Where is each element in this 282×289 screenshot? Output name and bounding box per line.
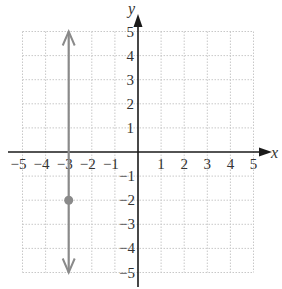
y-tick-label: 2 xyxy=(127,96,135,112)
y-tick-label: −3 xyxy=(119,216,135,232)
x-tick-label: −4 xyxy=(34,156,50,172)
x-tick-label: 1 xyxy=(157,156,165,172)
axes: x y xyxy=(8,0,278,287)
y-axis-label: y xyxy=(126,0,136,18)
y-tick-label: −5 xyxy=(119,265,135,281)
x-tick-label: −1 xyxy=(103,156,119,172)
y-tick-label: −1 xyxy=(119,168,135,184)
y-tick-label: −4 xyxy=(119,240,135,256)
y-tick-label: 1 xyxy=(127,120,135,136)
y-tick-label: 3 xyxy=(127,72,135,88)
x-tick-label: −3 xyxy=(57,156,73,172)
coordinate-plane: x y −5−4−3−2−11234554321−1−2−3−4−5 xyxy=(0,0,282,289)
y-tick-label: 5 xyxy=(127,24,135,40)
x-tick-label: 3 xyxy=(204,156,212,172)
cropped-caption-text xyxy=(0,280,282,289)
x-tick-label: 5 xyxy=(250,156,258,172)
y-tick-label: −2 xyxy=(119,192,135,208)
x-tick-label: −2 xyxy=(80,156,96,172)
plotted-point xyxy=(64,196,73,205)
x-tick-label: 2 xyxy=(180,156,188,172)
x-tick-label: −5 xyxy=(11,156,27,172)
x-tick-label: 4 xyxy=(227,156,235,172)
x-axis-label: x xyxy=(270,144,278,161)
y-tick-label: 4 xyxy=(127,48,135,64)
